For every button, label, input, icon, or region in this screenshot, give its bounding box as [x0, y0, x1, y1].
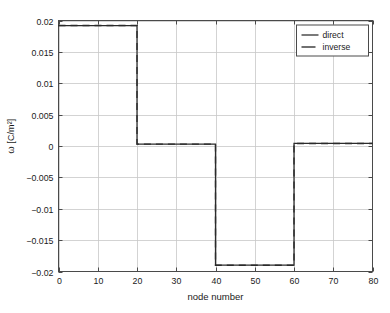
chart-figure: ω [C/m²] node number 0.020.0150.010.0050…: [0, 0, 390, 313]
x-tick-label: 0: [57, 276, 62, 286]
data-series-group: [59, 26, 373, 266]
y-tick-label: −0.015: [26, 236, 53, 246]
x-axis-label: node number: [58, 291, 373, 302]
y-tick-label: 0.015: [31, 48, 53, 58]
y-tick-label: 0.02: [36, 17, 53, 27]
y-tick-label: −0.005: [26, 173, 53, 183]
x-tick-label: 60: [290, 276, 300, 286]
y-tick-label: −0.02: [31, 268, 53, 278]
x-tick-label: 10: [94, 276, 104, 286]
legend-label-direct: direct: [323, 30, 345, 40]
x-tick-label: 80: [369, 276, 379, 286]
x-tick-label: 70: [329, 276, 339, 286]
y-tick-label: 0: [49, 142, 54, 152]
y-tick-label: 0.005: [31, 111, 53, 121]
x-tick-label: 30: [172, 276, 182, 286]
x-axis-ticks: 01020304050607080: [57, 21, 378, 286]
x-tick-label: 50: [251, 276, 261, 286]
legend-box: directinverse: [297, 25, 369, 56]
legend-label-inverse: inverse: [323, 42, 351, 52]
x-tick-label: 40: [212, 276, 222, 286]
y-tick-label: −0.01: [31, 205, 53, 215]
plot-canvas: 0.020.0150.010.0050−0.005−0.01−0.015−0.0…: [0, 0, 390, 313]
y-tick-label: 0.01: [36, 79, 53, 89]
series-line-inverse: [59, 26, 373, 266]
x-tick-label: 20: [133, 276, 143, 286]
